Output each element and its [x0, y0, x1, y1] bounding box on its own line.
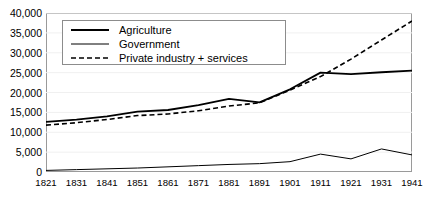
legend-item[interactable]: Agriculture: [69, 23, 285, 37]
x-axis-tick-label: 1901: [279, 178, 300, 188]
chart-legend: AgricultureGovernmentPrivate industry + …: [62, 20, 286, 65]
y-axis-tick-label: 15,000: [0, 107, 42, 118]
y-axis-tick-label: 40,000: [0, 8, 42, 19]
x-axis-tick-label: 1891: [249, 178, 270, 188]
y-axis-tick-labels: 40,00035,00030,00025,00020,00015,00010,0…: [0, 0, 42, 201]
x-axis-tick-label: 1881: [218, 178, 239, 188]
legend-item-label: Agriculture: [119, 25, 172, 36]
legend-item-label: Private industry + services: [119, 53, 248, 64]
y-axis-tick-label: 30,000: [0, 48, 42, 59]
x-axis-tick-label: 1931: [371, 178, 392, 188]
x-axis-tick-label: 1941: [401, 178, 422, 188]
x-axis-tick-label: 1851: [127, 178, 148, 188]
x-axis-tick-label: 1911: [310, 178, 331, 188]
series-line: [46, 71, 412, 122]
x-axis-tick-label: 1841: [96, 178, 117, 188]
y-axis-tick-label: 20,000: [0, 88, 42, 99]
legend-item-label: Government: [119, 39, 180, 50]
x-axis-tick-label: 1821: [35, 178, 56, 188]
x-axis-tick-label: 1921: [340, 178, 361, 188]
y-axis-tick-label: 35,000: [0, 28, 42, 39]
legend-item[interactable]: Private industry + services: [69, 51, 285, 65]
y-axis-tick-label: 5,000: [0, 147, 42, 158]
y-axis-tick-label: 0: [0, 167, 42, 178]
legend-line-swatch-icon: [69, 38, 111, 50]
legend-line-swatch-icon: [69, 24, 111, 36]
legend-line-swatch-icon: [69, 52, 111, 64]
legend-item[interactable]: Government: [69, 37, 285, 51]
x-axis-tick-label: 1831: [66, 178, 87, 188]
x-axis-tick-label: 1861: [157, 178, 178, 188]
y-axis-tick-label: 25,000: [0, 68, 42, 79]
y-axis-tick-label: 10,000: [0, 127, 42, 138]
x-axis-tick-label: 1871: [188, 178, 209, 188]
